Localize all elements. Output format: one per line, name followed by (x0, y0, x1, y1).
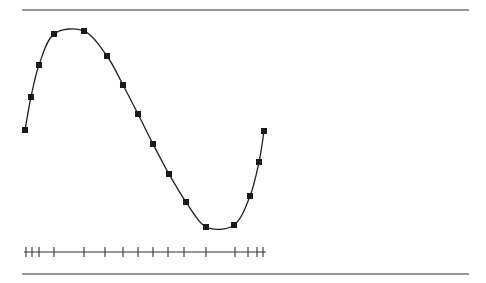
square-marker (22, 127, 28, 133)
data-curve (25, 29, 264, 230)
square-marker (36, 62, 42, 68)
data-markers (22, 28, 267, 230)
square-marker (120, 82, 126, 88)
square-marker (150, 141, 156, 147)
square-marker (231, 222, 237, 228)
sine-line-chart (0, 0, 486, 283)
square-marker (81, 28, 87, 34)
square-marker (135, 111, 141, 117)
square-marker (261, 128, 267, 134)
square-marker (28, 94, 34, 100)
square-marker (256, 159, 262, 165)
square-marker (203, 224, 209, 230)
square-marker (247, 193, 253, 199)
square-marker (104, 53, 110, 59)
x-axis (24, 247, 266, 257)
square-marker (183, 199, 189, 205)
square-marker (166, 171, 172, 177)
square-marker (51, 31, 57, 37)
